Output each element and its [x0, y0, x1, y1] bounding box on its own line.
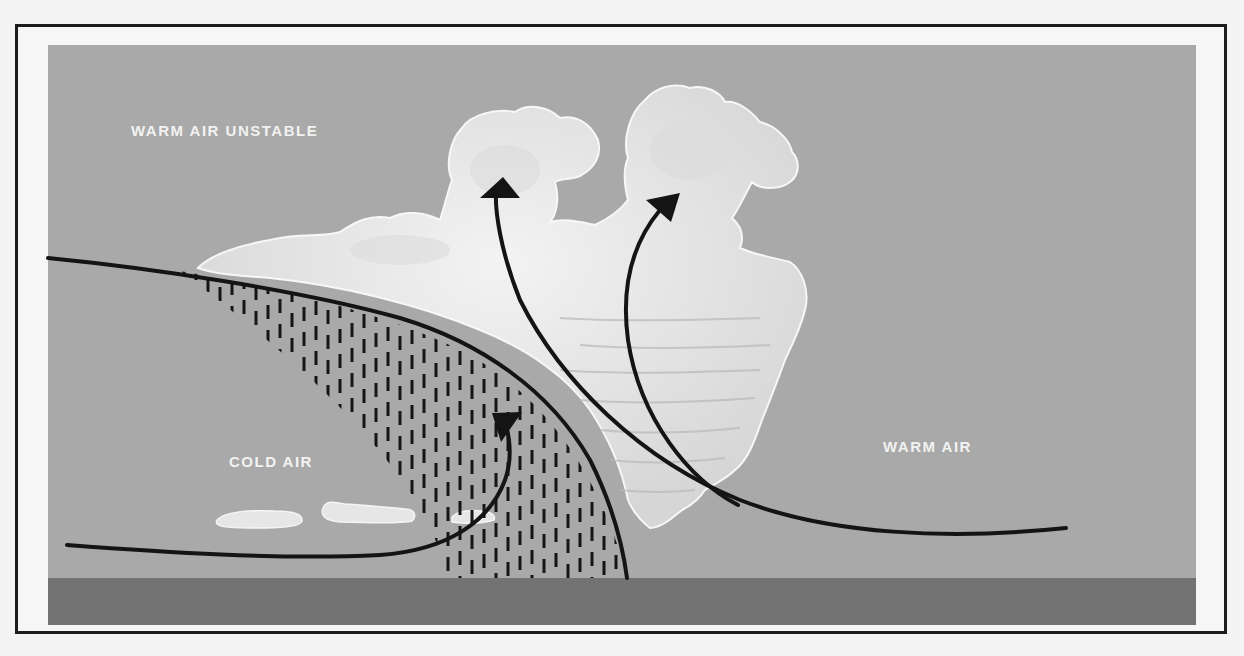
low-clouds — [216, 502, 494, 528]
label-warm-air-unstable: WARM AIR UNSTABLE — [131, 122, 318, 139]
cold-air-arrow — [67, 412, 522, 557]
low-cloud-1 — [216, 511, 302, 528]
label-cold-air: COLD AIR — [229, 453, 313, 470]
front-diagram — [0, 0, 1244, 656]
label-warm-air: WARM AIR — [883, 438, 972, 455]
low-cloud-2 — [322, 502, 414, 523]
